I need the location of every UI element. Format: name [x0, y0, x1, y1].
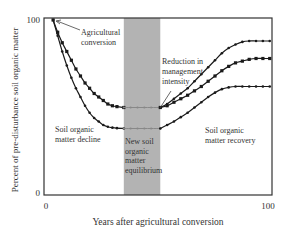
data-point-marker [66, 64, 69, 67]
data-point-marker [172, 101, 175, 104]
annotation-agricultural-conversion: Agricultural conversion [81, 28, 122, 47]
data-point-marker [268, 85, 271, 88]
annotation-decline: Soil organic matter decline [55, 125, 101, 144]
data-point-marker [136, 127, 138, 129]
data-point-marker [102, 124, 105, 127]
data-point-marker [79, 74, 82, 77]
data-point-marker [214, 91, 217, 94]
data-point-marker [56, 34, 59, 37]
y-tick-0: 0 [36, 188, 41, 198]
data-point-marker [123, 127, 125, 129]
data-point-marker [173, 97, 176, 100]
annotation-recovery: Soil organic matter recovery [205, 126, 255, 145]
data-point-marker [97, 95, 100, 98]
data-point-marker [107, 125, 110, 128]
y-axis-title: Percent of pre-disturbance soil organic … [10, 28, 20, 193]
data-point-marker [207, 66, 210, 69]
data-point-marker [88, 111, 91, 114]
data-point-marker [84, 104, 87, 107]
data-point-marker [150, 127, 152, 129]
data-point-marker [186, 87, 189, 90]
data-point-marker [61, 41, 64, 44]
data-point-marker [97, 120, 100, 123]
data-point-marker [115, 105, 118, 108]
data-point-marker [166, 124, 169, 127]
data-point-marker [254, 57, 257, 60]
data-point-marker [65, 50, 68, 53]
data-point-marker [173, 120, 176, 123]
data-point-marker [143, 127, 145, 129]
data-point-marker [221, 88, 224, 91]
data-point-marker [213, 74, 216, 77]
data-point-marker [74, 67, 77, 70]
data-point-marker [268, 40, 271, 43]
data-point-marker [220, 69, 223, 72]
data-point-marker [130, 127, 132, 129]
data-point-marker [193, 89, 196, 92]
x-tick-100: 100 [261, 201, 275, 211]
data-point-marker [93, 92, 96, 95]
data-point-marker [261, 57, 264, 60]
data-point-marker [130, 106, 132, 108]
data-point-marker [221, 52, 224, 55]
data-point-marker [200, 101, 203, 104]
data-point-marker [262, 85, 265, 88]
data-point-marker [159, 127, 162, 130]
data-point-marker [241, 60, 244, 63]
data-point-marker [88, 87, 91, 90]
data-point-marker [102, 99, 105, 102]
data-point-marker [123, 106, 125, 108]
data-point-marker [166, 104, 169, 107]
data-point-marker [111, 126, 114, 129]
data-point-marker [248, 40, 251, 43]
data-point-marker [234, 61, 237, 64]
data-point-marker [111, 104, 114, 107]
agricultural-conversion-arrow [57, 21, 80, 30]
data-point-marker [106, 102, 109, 105]
data-point-marker [268, 57, 271, 60]
data-point-marker [207, 96, 210, 99]
data-point-marker [83, 81, 86, 84]
data-point-marker [150, 106, 152, 108]
data-point-marker [255, 85, 258, 88]
data-point-marker [180, 92, 183, 95]
annotation-reduction: Reduction in management intensity [162, 57, 205, 86]
data-point-marker [70, 59, 73, 62]
data-point-marker [234, 85, 237, 88]
y-tick-100: 100 [27, 15, 41, 25]
data-point-marker [241, 41, 244, 44]
data-point-marker [186, 94, 189, 97]
data-point-marker [200, 85, 203, 88]
data-point-marker [248, 58, 251, 61]
data-point-marker [75, 87, 78, 90]
data-point-marker [227, 86, 230, 89]
data-point-marker [186, 111, 189, 114]
data-point-marker [180, 116, 183, 119]
data-point-marker [214, 59, 217, 62]
data-point-marker [143, 106, 145, 108]
data-point-marker [207, 80, 210, 83]
data-point-marker [262, 40, 265, 43]
data-point-marker [227, 65, 230, 68]
data-point-marker [52, 19, 55, 22]
soil-organic-matter-chart: 100 0 0 100 Years after agricultural con… [0, 0, 290, 231]
data-point-marker [241, 85, 244, 88]
x-tick-0: 0 [44, 201, 49, 211]
data-point-marker [61, 50, 64, 53]
data-point-marker [193, 106, 196, 109]
x-axis-title: Years after agricultural conversion [92, 217, 223, 227]
data-point-marker [234, 43, 237, 46]
data-point-marker [93, 117, 96, 120]
data-point-marker [193, 80, 196, 83]
data-point-marker [179, 97, 182, 100]
data-point-marker [70, 76, 73, 79]
data-point-marker [227, 47, 230, 50]
data-point-marker [79, 96, 82, 99]
data-point-marker [248, 85, 251, 88]
data-point-marker [136, 106, 138, 108]
data-point-marker [255, 40, 258, 43]
data-point-marker [116, 127, 119, 130]
